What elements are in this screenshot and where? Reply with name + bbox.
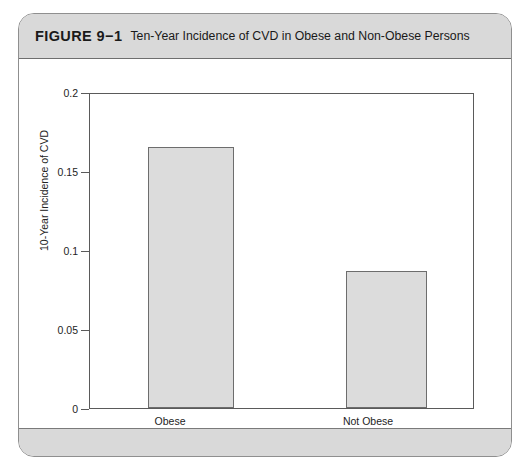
bar-chart: 00.050.10.150.2 10-Year Incidence of CVD…: [19, 14, 512, 457]
y-axis-title: 10-Year Incidence of CVD: [38, 130, 50, 251]
x-axis-label-not-obese: Not Obese: [287, 415, 449, 427]
y-axis-tick: [81, 172, 89, 173]
x-axis-label-obese: Obese: [89, 415, 251, 427]
figure-footer: [19, 428, 511, 456]
figure-card: FIGURE 9−1 Ten-Year Incidence of CVD in …: [18, 13, 512, 457]
y-axis-tick-label: 0.2: [63, 87, 78, 99]
y-axis-tick-label: 0: [72, 403, 78, 415]
y-axis-tick-label: 0.05: [58, 324, 78, 336]
y-axis-tick: [81, 93, 89, 94]
plot-frame: [89, 93, 474, 409]
bar-obese: [148, 147, 234, 408]
y-axis-tick: [81, 330, 89, 331]
y-axis-tick-label: 0.15: [58, 166, 78, 178]
y-axis-tick: [81, 409, 89, 410]
bar-not-obese: [346, 271, 427, 408]
y-axis-tick: [81, 251, 89, 252]
y-axis-tick-label: 0.1: [63, 245, 78, 257]
